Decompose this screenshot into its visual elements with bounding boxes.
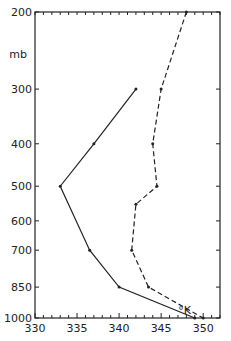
y-tick-label: 1000 bbox=[4, 312, 32, 325]
chart: 330335340345350°K20030040050060070085010… bbox=[0, 0, 231, 341]
y-tick-label: 500 bbox=[11, 180, 32, 193]
data-point bbox=[202, 317, 205, 320]
plot-frame bbox=[35, 12, 220, 318]
y-tick-label: 600 bbox=[11, 215, 32, 228]
data-point bbox=[193, 317, 196, 320]
data-point bbox=[118, 286, 121, 289]
data-point bbox=[88, 249, 91, 252]
data-point bbox=[134, 203, 137, 206]
x-tick-label: 345 bbox=[151, 322, 172, 335]
data-point bbox=[185, 11, 188, 14]
y-tick-label: 400 bbox=[11, 138, 32, 151]
y-tick-label: 700 bbox=[11, 244, 32, 257]
y-axis-label: mb bbox=[9, 48, 27, 61]
data-point bbox=[147, 286, 150, 289]
x-tick-label: 340 bbox=[109, 322, 130, 335]
data-point bbox=[160, 88, 163, 91]
y-tick-label: 200 bbox=[11, 6, 32, 19]
data-point bbox=[130, 249, 133, 252]
data-point bbox=[151, 142, 154, 145]
series-dashed bbox=[132, 12, 203, 318]
y-tick-label: 300 bbox=[11, 83, 32, 96]
y-tick-label: 850 bbox=[11, 281, 32, 294]
series-solid bbox=[60, 89, 195, 318]
x-tick-label: 335 bbox=[67, 322, 88, 335]
data-point bbox=[155, 185, 158, 188]
data-point bbox=[92, 142, 95, 145]
data-point bbox=[134, 88, 137, 91]
data-point bbox=[59, 185, 62, 188]
x-tick-label: 350 bbox=[193, 322, 214, 335]
